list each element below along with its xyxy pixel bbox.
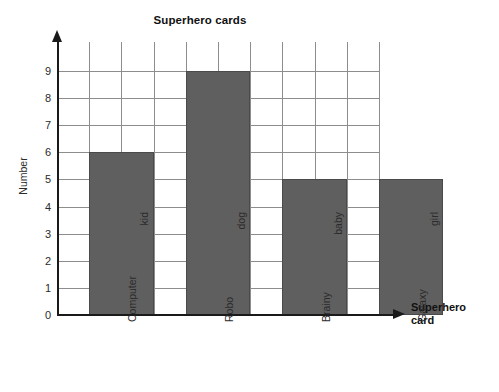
category-label-line2: dog: [235, 212, 247, 322]
gridline-vertical: [347, 42, 348, 315]
y-axis-tick-label: 3: [25, 228, 51, 240]
bar-chart: Superhero cards 0123456789 Number Superh…: [0, 0, 499, 392]
y-axis-title: Number: [17, 146, 29, 206]
gridline-vertical: [154, 42, 155, 315]
y-axis-tick-label: 0: [25, 309, 51, 321]
category-label-line1: Brainy: [320, 212, 332, 322]
category-label-line1: Robo: [223, 212, 235, 322]
category-label-line2: girl: [428, 212, 440, 322]
category-label-line1: Galaxy: [416, 212, 428, 322]
x-axis-arrowhead-icon: [393, 309, 405, 319]
x-axis-category-label: Robodog: [223, 212, 247, 322]
y-axis-tick-label: 7: [25, 119, 51, 131]
y-axis-arrowhead-icon: [52, 30, 62, 42]
gridline-vertical: [250, 42, 251, 315]
y-axis-line: [57, 38, 59, 316]
category-label-line2: kid: [138, 212, 150, 322]
y-axis-tick-label: 8: [25, 92, 51, 104]
x-axis-category-label: Galaxygirl: [416, 212, 440, 322]
x-axis-category-label: Brainybaby: [320, 212, 344, 322]
y-axis-tick-label: 2: [25, 255, 51, 267]
y-axis-tick-label: 1: [25, 282, 51, 294]
x-axis-category-label: Computerkid: [126, 212, 150, 322]
y-axis-tick-label: 9: [25, 65, 51, 77]
chart-title: Superhero cards: [0, 14, 400, 26]
category-label-line1: Computer: [126, 212, 138, 322]
category-label-line2: baby: [332, 212, 344, 322]
